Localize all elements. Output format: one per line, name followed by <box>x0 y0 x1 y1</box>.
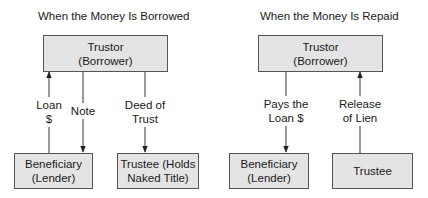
trustor-borrower-box: Trustor (Borrower) <box>43 35 168 72</box>
connector-label-loan: Loan $ <box>36 97 62 127</box>
box-label: Beneficiary <box>241 157 298 171</box>
label-line: Loan <box>36 98 62 112</box>
box-sublabel: (Borrower) <box>78 54 132 68</box>
label-line: Note <box>71 104 95 118</box>
beneficiary-lender-box: Beneficiary (Lender) <box>14 153 93 189</box>
box-label: Trustee <box>353 164 392 178</box>
box-sublabel: (Lender) <box>247 171 290 185</box>
connector-label-release-of-lien: Release of Lien <box>339 96 381 126</box>
label-line: of Lien <box>339 111 381 125</box>
trustor-borrower-box-repaid: Trustor (Borrower) <box>258 35 383 72</box>
panel-title-borrowed: When the Money Is Borrowed <box>38 9 184 23</box>
box-label: Trustor <box>303 40 339 54</box>
connector-label-note: Note <box>71 103 95 119</box>
trustee-naked-title-box: Trustee (Holds Naked Title) <box>117 153 199 189</box>
beneficiary-lender-box-repaid: Beneficiary (Lender) <box>229 153 309 189</box>
box-sublabel: Naked Title) <box>127 171 188 185</box>
box-sublabel: (Borrower) <box>293 54 347 68</box>
label-line: $ <box>36 112 62 126</box>
box-label: Trustor <box>88 40 124 54</box>
label-line: Deed of <box>125 98 165 112</box>
label-line: Loan $ <box>264 111 309 125</box>
connector-label-deed-of-trust: Deed of Trust <box>125 97 165 127</box>
label-line: Pays the <box>264 97 309 111</box>
label-line: Release <box>339 97 381 111</box>
box-label: Beneficiary <box>25 157 82 171</box>
trustee-box-repaid: Trustee <box>332 153 413 189</box>
panel-title-repaid: When the Money Is Repaid <box>260 9 392 23</box>
connector-label-pays-loan: Pays the Loan $ <box>264 96 309 126</box>
box-label: Trustee (Holds <box>121 157 196 171</box>
label-line: Trust <box>125 112 165 126</box>
box-sublabel: (Lender) <box>32 171 75 185</box>
